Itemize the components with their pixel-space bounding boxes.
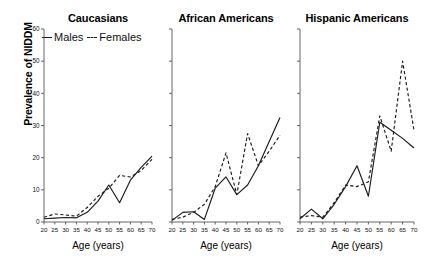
plot-area-african-americans: 2025303540455055606570 (162, 0, 290, 240)
x-tick-label: 60 (255, 226, 262, 233)
x-tick-label: 70 (411, 226, 418, 233)
x-tick-label: 30 (319, 226, 326, 233)
series-line-males (44, 156, 152, 219)
x-tick-label: 70 (149, 226, 156, 233)
y-tick-label: 30 (32, 122, 40, 129)
x-tick-label: 50 (233, 226, 240, 233)
panel-african-americans: African Americans 2025303540455055606570… (162, 0, 290, 267)
x-tick-label: 65 (266, 226, 273, 233)
series-line-males (172, 117, 280, 220)
x-tick-label: 25 (179, 226, 186, 233)
series-line-females (44, 159, 152, 217)
series-line-males (300, 122, 414, 219)
x-tick-label: 65 (399, 226, 406, 233)
y-tick-label: 20 (32, 154, 40, 161)
x-tick-label: 20 (297, 226, 304, 233)
y-tick-label: 10 (32, 186, 40, 193)
x-tick-label: 30 (190, 226, 197, 233)
x-tick-label: 40 (342, 226, 349, 233)
y-tick-label: 0 (36, 218, 40, 225)
x-tick-label: 45 (223, 226, 230, 233)
x-axis-title-caucasians: Age (years) (34, 240, 162, 251)
x-axis-title-african-americans: Age (years) (162, 240, 290, 251)
x-axis-title-hispanic-americans: Age (years) (290, 240, 424, 251)
x-tick-label: 60 (127, 226, 134, 233)
x-tick-label: 35 (201, 226, 208, 233)
x-tick-label: 50 (105, 226, 112, 233)
x-tick-label: 30 (62, 226, 69, 233)
y-tick-label: 60 (32, 25, 40, 32)
y-tick-label: 40 (32, 90, 40, 97)
panel-hispanic-americans: Hispanic Americans 202530354045505560657… (290, 0, 424, 267)
series-line-females (300, 61, 414, 217)
x-tick-label: 35 (331, 226, 338, 233)
x-tick-label: 35 (73, 226, 80, 233)
x-tick-label: 55 (116, 226, 123, 233)
x-tick-label: 55 (244, 226, 251, 233)
x-tick-label: 70 (277, 226, 284, 233)
x-tick-label: 40 (84, 226, 91, 233)
plot-area-caucasians: 01020304050602025303540455055606570 (34, 0, 162, 240)
x-tick-label: 20 (169, 226, 176, 233)
x-tick-label: 50 (365, 226, 372, 233)
x-tick-label: 25 (308, 226, 315, 233)
x-tick-label: 45 (354, 226, 361, 233)
panel-caucasians: Caucasians Males Females 010203040506020… (34, 0, 162, 267)
plot-area-hispanic-americans: 2025303540455055606570 (290, 0, 424, 240)
y-tick-label: 50 (32, 57, 40, 64)
x-tick-label: 25 (51, 226, 58, 233)
figure-root: Prevalence of NIDDM Caucasians Males Fem… (0, 0, 432, 267)
x-tick-label: 20 (41, 226, 48, 233)
x-tick-label: 60 (388, 226, 395, 233)
x-tick-label: 55 (376, 226, 383, 233)
y-axis-title: Prevalence of NIDDM (22, 0, 34, 154)
x-tick-label: 40 (212, 226, 219, 233)
x-tick-label: 45 (95, 226, 102, 233)
x-tick-label: 65 (138, 226, 145, 233)
